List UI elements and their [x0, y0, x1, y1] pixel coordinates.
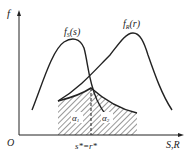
overlap-region [55, 80, 140, 136]
intersection-label: s*=r* [75, 141, 98, 151]
y-axis-arrow-icon [17, 10, 21, 16]
alpha1-label: α1 [71, 112, 83, 123]
svg-text:fS(s): fS(s) [64, 26, 81, 38]
interference-diagram: f O S,R s*=r* fS(s) fR(r) α1 α2 [0, 0, 189, 155]
stress-curve-label: fS(s) [64, 26, 81, 38]
y-axis-label: f [7, 7, 12, 19]
origin-label: O [7, 137, 14, 148]
strength-curve-label: fR(r) [123, 18, 141, 30]
x-axis-arrow-icon [178, 133, 184, 137]
svg-text:fR(r): fR(r) [123, 18, 141, 30]
alpha2-label: α2 [101, 112, 113, 123]
x-axis-label: S,R [166, 139, 180, 150]
